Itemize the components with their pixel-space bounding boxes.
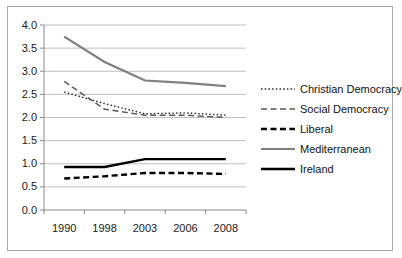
series-line-social-democracy (64, 81, 226, 117)
y-tick-label: 3.0 (22, 65, 37, 77)
legend-label: Liberal (300, 123, 333, 135)
y-tick-label: 0.0 (22, 204, 37, 216)
series-line-christian-democracy (64, 92, 226, 115)
x-tick-label: 2003 (133, 222, 157, 234)
legend-line-sample-christian-democracy (260, 83, 296, 95)
legend-label: Ireland (300, 163, 334, 175)
legend-label: Mediterranean (300, 143, 371, 155)
series-line-liberal (64, 173, 226, 179)
legend: Christian DemocracySocial DemocracyLiber… (260, 79, 402, 179)
legend-line-sample-mediterranean (260, 143, 296, 155)
x-tick-label: 1990 (52, 222, 76, 234)
x-tick-label: 2006 (173, 222, 197, 234)
series-line-mediterranean (64, 37, 226, 86)
y-tick-label: 1.0 (22, 157, 37, 169)
figure-frame: 0.00.51.01.52.02.53.03.54.01990199820032… (7, 6, 393, 251)
legend-item-ireland: Ireland (260, 159, 402, 179)
legend-item-social-democracy: Social Democracy (260, 99, 402, 119)
y-tick-label: 4.0 (22, 19, 37, 31)
legend-line-sample-social-democracy (260, 103, 296, 115)
legend-line-sample-ireland (260, 163, 296, 175)
y-tick-label: 2.0 (22, 111, 37, 123)
legend-line-sample-liberal (260, 123, 296, 135)
y-tick-label: 3.5 (22, 42, 37, 54)
legend-item-christian-democracy: Christian Democracy (260, 79, 402, 99)
legend-item-mediterranean: Mediterranean (260, 139, 402, 159)
y-tick-label: 1.5 (22, 134, 37, 146)
x-tick-label: 1998 (92, 222, 116, 234)
x-tick-label: 2008 (214, 222, 238, 234)
y-tick-label: 2.5 (22, 88, 37, 100)
legend-item-liberal: Liberal (260, 119, 402, 139)
legend-label: Christian Democracy (300, 83, 402, 95)
legend-label: Social Democracy (300, 103, 389, 115)
series-line-ireland (64, 159, 226, 167)
y-tick-label: 0.5 (22, 180, 37, 192)
